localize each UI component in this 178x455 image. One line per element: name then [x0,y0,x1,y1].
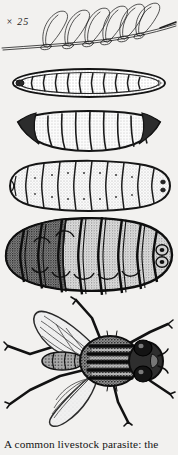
figure-mature-larva-warble [0,212,178,296]
figure-adult-fly [0,294,178,428]
illustration-plate: × 25 [0,0,178,455]
figure-second-instar-larva [0,108,178,156]
figure-third-instar-larva [0,156,178,214]
figure-caption: A common livestock parasite: the [4,437,178,451]
figure-first-instar-larva [0,58,178,108]
figure-eggs-on-hair [0,0,178,58]
